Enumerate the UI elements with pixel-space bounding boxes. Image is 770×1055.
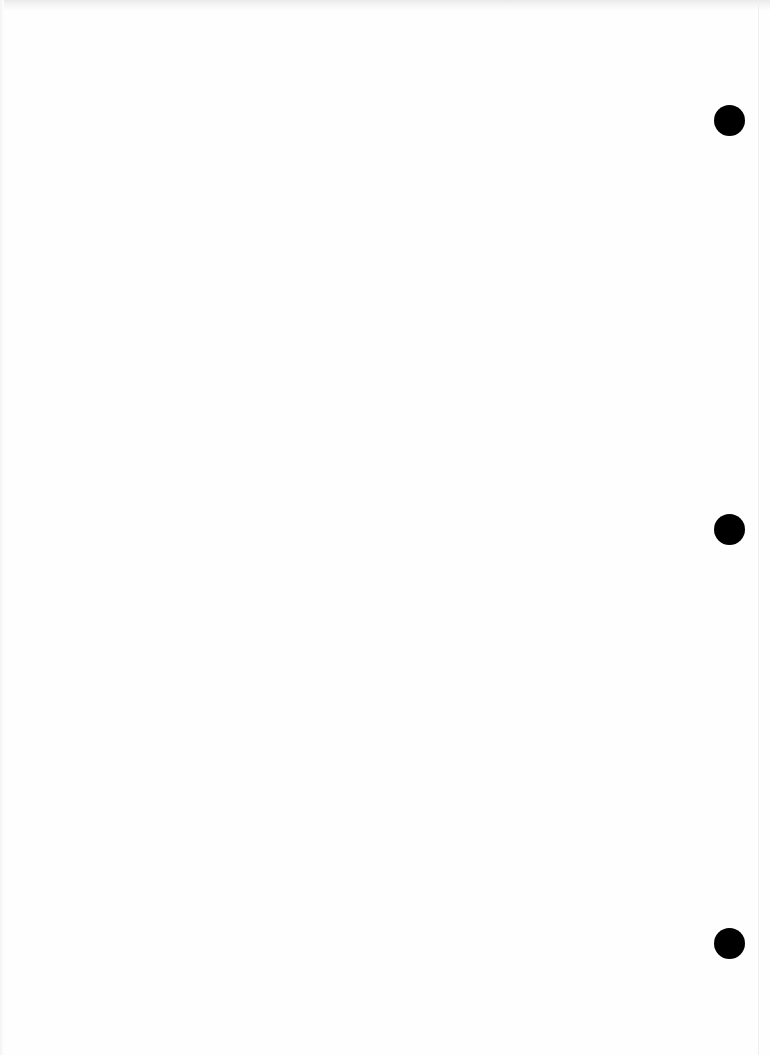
punch-hole-middle [714, 514, 745, 545]
scanned-page [0, 0, 770, 1055]
scan-left-edge-shadow [0, 0, 4, 1055]
punch-hole-bottom [714, 928, 745, 959]
scan-top-edge-shadow [0, 0, 770, 10]
punch-hole-top [714, 105, 745, 136]
scan-right-fold-line [758, 0, 759, 1055]
